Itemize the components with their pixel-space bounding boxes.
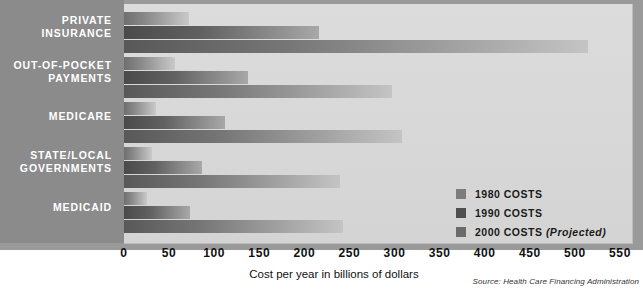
x-axis-tick-300: 300	[384, 246, 406, 260]
category-label-state-local-governments: STATE/LOCAL GOVERNMENTS	[0, 149, 112, 174]
bar-1980-medicaid	[124, 192, 147, 205]
category-label-line: OUT-OF-POCKET	[0, 59, 112, 72]
x-axis-tick-350: 350	[429, 246, 451, 260]
bar-2000-out-of-pocket-payments	[124, 85, 392, 98]
legend-item-1980: 1980 COSTS	[456, 186, 606, 202]
bar-chart: PRIVATE INSURANCE OUT-OF-POCKET PAYMENTS…	[0, 0, 643, 296]
bar-1980-private-insurance	[124, 12, 189, 25]
bar-2000-medicaid	[124, 220, 343, 233]
x-axis: 050100150200250300350400450500550	[0, 246, 643, 270]
category-label-line: MEDICARE	[0, 110, 112, 123]
bar-2000-state-local-governments	[124, 175, 340, 188]
bar-1990-medicaid	[124, 206, 190, 219]
legend-label: 1990 COSTS	[475, 207, 542, 219]
bar-1980-out-of-pocket-payments	[124, 57, 175, 70]
x-axis-tick-0: 0	[120, 246, 127, 260]
x-axis-tick-200: 200	[293, 246, 315, 260]
bar-1990-state-local-governments	[124, 161, 202, 174]
legend-label: 1980 COSTS	[475, 188, 542, 200]
legend-swatch-icon	[456, 208, 466, 218]
legend-label-projected: (Projected)	[546, 226, 606, 238]
category-label-line: MEDICAID	[0, 201, 112, 214]
legend-label-text: 2000 COSTS	[475, 226, 542, 238]
chart-legend: 1980 COSTS 1990 COSTS 2000 COSTS (Projec…	[456, 186, 606, 243]
category-label-line: PRIVATE	[0, 14, 112, 27]
x-axis-tick-550: 550	[609, 246, 631, 260]
bar-1980-medicare	[124, 102, 156, 115]
legend-swatch-icon	[456, 189, 466, 199]
x-axis-tick-50: 50	[162, 246, 177, 260]
bar-1990-private-insurance	[124, 26, 319, 39]
x-axis-tick-100: 100	[203, 246, 225, 260]
legend-item-2000: 2000 COSTS (Projected)	[456, 224, 606, 240]
x-axis-tick-250: 250	[339, 246, 361, 260]
legend-label: 2000 COSTS (Projected)	[475, 226, 606, 238]
source-note: Source: Health Care Financing Administra…	[473, 277, 639, 286]
bar-1980-state-local-governments	[124, 147, 152, 160]
bar-2000-private-insurance	[124, 40, 588, 53]
x-axis-tick-400: 400	[474, 246, 496, 260]
category-label-panel: PRIVATE INSURANCE OUT-OF-POCKET PAYMENTS…	[0, 0, 124, 243]
x-axis-tick-450: 450	[519, 246, 541, 260]
x-axis-tick-150: 150	[248, 246, 270, 260]
bar-1990-medicare	[124, 116, 225, 129]
category-label-medicaid: MEDICAID	[0, 201, 112, 214]
category-label-medicare: MEDICARE	[0, 110, 112, 123]
x-axis-tick-500: 500	[564, 246, 586, 260]
legend-swatch-icon	[456, 227, 466, 237]
category-label-line: STATE/LOCAL	[0, 149, 112, 162]
category-label-private-insurance: PRIVATE INSURANCE	[0, 14, 112, 39]
category-label-line: PAYMENTS	[0, 72, 112, 85]
legend-item-1990: 1990 COSTS	[456, 205, 606, 221]
bar-2000-medicare	[124, 130, 402, 143]
category-label-line: INSURANCE	[0, 27, 112, 40]
bar-1990-out-of-pocket-payments	[124, 71, 248, 84]
category-label-out-of-pocket-payments: OUT-OF-POCKET PAYMENTS	[0, 59, 112, 84]
category-label-line: GOVERNMENTS	[0, 162, 112, 175]
